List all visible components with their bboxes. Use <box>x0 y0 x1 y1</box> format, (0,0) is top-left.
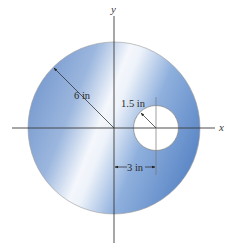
plate-diagram: y x 6 in 1.5 in 3 in <box>0 0 234 252</box>
hole-radius-label: 1.5 in <box>121 98 146 109</box>
offset-label: 3 in <box>127 162 144 173</box>
y-axis-label: y <box>110 3 116 15</box>
outer-radius-label: 6 in <box>74 90 91 101</box>
x-axis-label: x <box>218 121 224 133</box>
